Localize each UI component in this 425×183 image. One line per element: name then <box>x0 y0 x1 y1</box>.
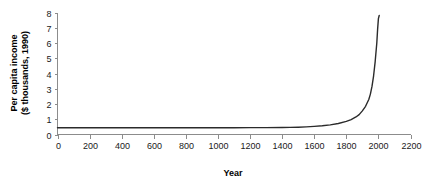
x-tick-label: 1400 <box>272 141 292 151</box>
y-tick-label: 7 <box>46 24 51 34</box>
x-tick-label: 400 <box>115 141 130 151</box>
x-tick-label: 2200 <box>401 141 421 151</box>
x-axis-ticks: 0200400600800100012001400160018002000220… <box>56 135 422 151</box>
x-axis-title: Year <box>223 168 243 178</box>
x-tick-label: 2000 <box>368 141 388 151</box>
per-capita-income-line-chart: Per capita income ($ thousands, 1990) 01… <box>0 0 425 183</box>
y-tick-label: 4 <box>46 70 51 80</box>
y-axis-ticks: 012345678 <box>46 9 57 141</box>
y-tick-label: 2 <box>46 100 51 110</box>
y-axis-title: Per capita income ($ thousands, 1990) <box>9 31 30 115</box>
y-tick-label: 0 <box>46 131 51 141</box>
y-tick-label: 8 <box>46 9 51 19</box>
x-tick-label: 800 <box>179 141 194 151</box>
x-tick-label: 1600 <box>304 141 324 151</box>
data-series-line <box>58 16 380 128</box>
x-tick-label: 0 <box>56 141 61 151</box>
y-tick-label: 6 <box>46 39 51 49</box>
chart-container: Per capita income ($ thousands, 1990) 01… <box>0 0 425 183</box>
y-tick-label: 1 <box>46 115 51 125</box>
y-axis-title-line1: Per capita income <box>9 34 19 111</box>
y-axis-title-line2: ($ thousands, 1990) <box>20 31 30 115</box>
x-tick-label: 600 <box>147 141 162 151</box>
y-tick-label: 3 <box>46 85 51 95</box>
x-tick-label: 1200 <box>240 141 260 151</box>
x-tick-label: 1000 <box>208 141 228 151</box>
x-tick-label: 200 <box>83 141 98 151</box>
y-tick-label: 5 <box>46 54 51 64</box>
x-tick-label: 1800 <box>336 141 356 151</box>
